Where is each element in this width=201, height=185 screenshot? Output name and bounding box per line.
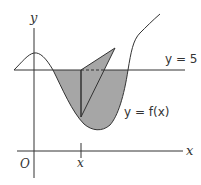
origin-label: O	[20, 157, 30, 171]
x-tick-label: x	[77, 156, 84, 170]
line-y5-label: y = 5	[165, 52, 197, 66]
diagram-canvas: y x O x y = 5 y = f(x)	[0, 0, 201, 185]
curve-label: y = f(x)	[124, 105, 169, 119]
y-axis-label: y	[29, 10, 38, 25]
x-axis-label: x	[186, 143, 194, 158]
